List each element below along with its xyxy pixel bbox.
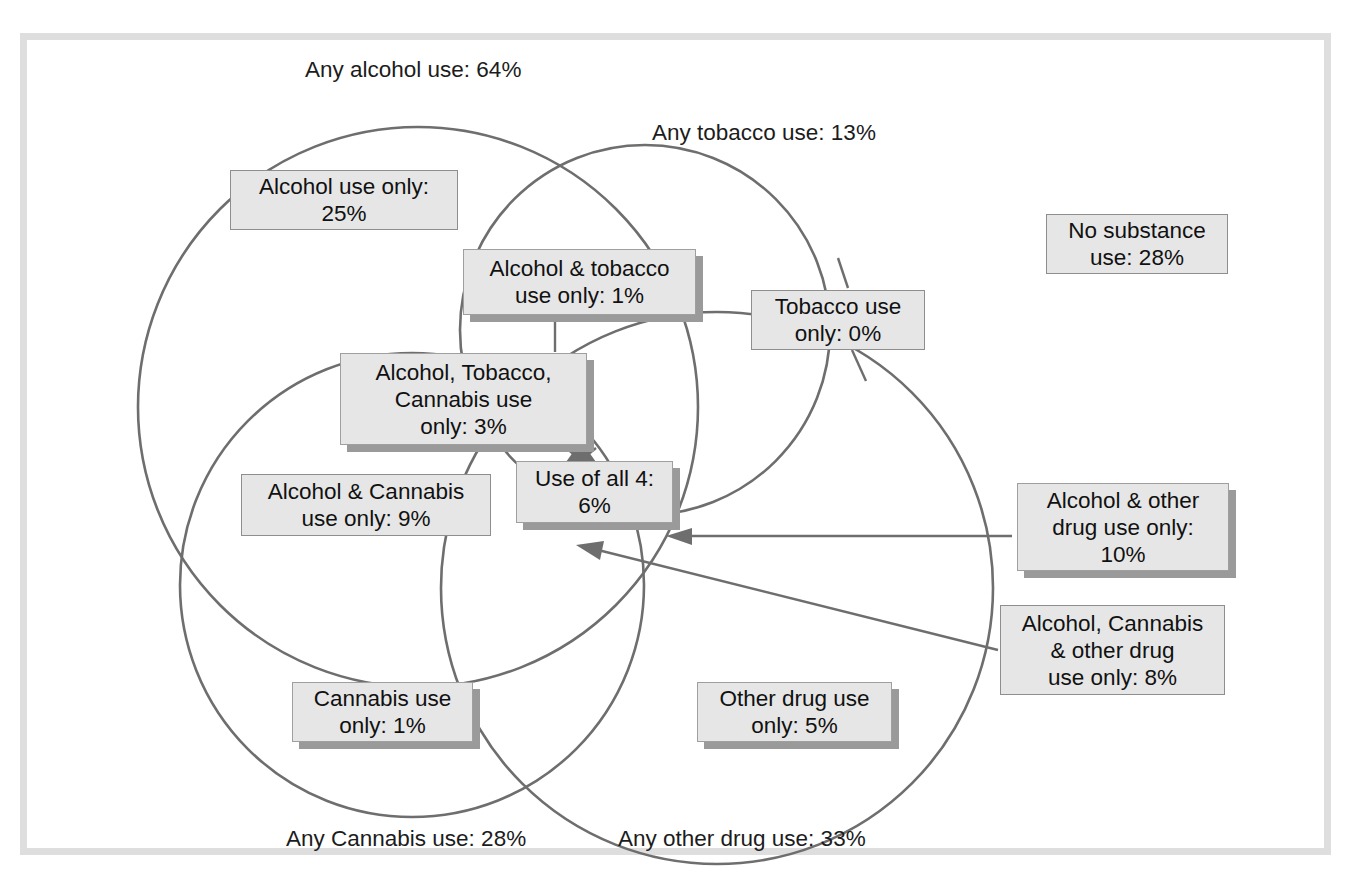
box-alcohol-tobacco-use-only: Alcohol & tobacco use only: 1%	[463, 249, 696, 315]
box-alcohol-use-only-line2: 25%	[321, 200, 366, 227]
box-alcohol-cannabis-line2: use only: 9%	[302, 505, 431, 532]
box-atc-line2: Cannabis use	[395, 386, 533, 413]
box-alcohol-tobacco-line2: use only: 1%	[515, 282, 644, 309]
connector-tobacco-only-top	[838, 258, 848, 288]
box-alcohol-cannabis-line1: Alcohol & Cannabis	[268, 478, 464, 505]
box-alcohol-other-drug-use-only: Alcohol & other drug use only: 10%	[1017, 483, 1229, 571]
box-alcohol-tobacco-line1: Alcohol & tobacco	[489, 255, 669, 282]
box-tobacco-use-only: Tobacco use only: 0%	[751, 290, 925, 350]
box-other-drug-only-line1: Other drug use	[719, 685, 869, 712]
arrowhead-aco	[576, 541, 604, 560]
box-all4-line1: Use of all 4:	[535, 465, 654, 492]
connector-aco	[586, 547, 998, 650]
box-aco-line1: Alcohol, Cannabis	[1022, 610, 1203, 637]
label-any-alcohol-use: Any alcohol use: 64%	[305, 56, 521, 83]
box-alcohol-other-line1: Alcohol & other	[1047, 487, 1200, 514]
label-any-tobacco-use: Any tobacco use: 13%	[652, 119, 876, 146]
box-alcohol-cannabis-use-only: Alcohol & Cannabis use only: 9%	[241, 474, 491, 536]
box-tobacco-only-line2: only: 0%	[795, 320, 881, 347]
box-cannabis-only-line1: Cannabis use	[314, 685, 452, 712]
box-aco-line3: use only: 8%	[1048, 664, 1177, 691]
box-no-substance-use: No substance use: 28%	[1046, 214, 1228, 274]
box-alcohol-tobacco-cannabis-use-only: Alcohol, Tobacco, Cannabis use only: 3%	[340, 353, 587, 445]
figure-canvas: Any alcohol use: 64% Any tobacco use: 13…	[0, 0, 1352, 889]
box-alcohol-cannabis-other-drug-use-only: Alcohol, Cannabis & other drug use only:…	[1000, 605, 1225, 695]
box-cannabis-only-line2: only: 1%	[339, 712, 425, 739]
box-atc-line1: Alcohol, Tobacco,	[376, 359, 552, 386]
box-alcohol-other-line2: drug use only:	[1052, 514, 1193, 541]
box-alcohol-other-line3: 10%	[1100, 541, 1145, 568]
box-cannabis-use-only: Cannabis use only: 1%	[292, 682, 473, 742]
label-any-other-drug-use: Any other drug use: 33%	[618, 825, 866, 852]
box-alcohol-use-only-line1: Alcohol use only:	[259, 173, 429, 200]
box-no-substance-line2: use: 28%	[1090, 244, 1184, 271]
box-other-drug-use-only: Other drug use only: 5%	[697, 682, 892, 742]
box-use-of-all-4: Use of all 4: 6%	[516, 461, 673, 523]
box-alcohol-use-only: Alcohol use only: 25%	[230, 170, 458, 230]
box-aco-line2: & other drug	[1051, 637, 1175, 664]
label-any-cannabis-use: Any Cannabis use: 28%	[286, 825, 526, 852]
box-no-substance-line1: No substance	[1068, 217, 1206, 244]
box-all4-line2: 6%	[578, 492, 611, 519]
box-atc-line3: only: 3%	[420, 413, 506, 440]
box-other-drug-only-line2: only: 5%	[751, 712, 837, 739]
box-tobacco-only-line1: Tobacco use	[775, 293, 901, 320]
